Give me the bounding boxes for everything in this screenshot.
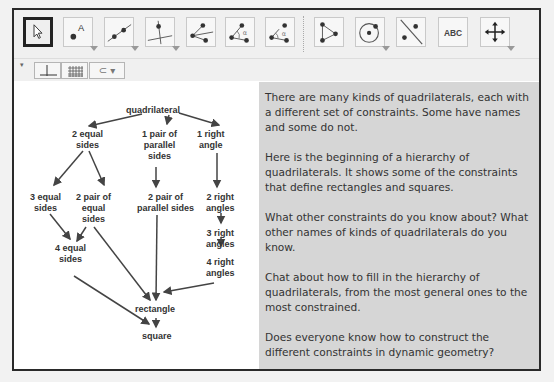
axes-icon [35,63,62,80]
point-tool-button[interactable]: A [63,17,93,47]
angle-given-size-icon: α [266,18,294,46]
reflect-about-line-icon [397,18,425,46]
perpendicular-tool-button[interactable] [145,17,175,47]
move-graphics-tool-button[interactable] [480,17,510,47]
menu-triangle-icon [507,46,515,51]
axes-toggle-button[interactable] [34,62,61,79]
menu-triangle-icon [172,46,180,51]
paragraph: Here is the beginning of a hierarchy of … [265,150,533,195]
cursor-arrow-icon [26,20,50,44]
node-two-pair-equal: 2 pair of equal sides [76,192,111,225]
line-tool-button[interactable] [104,17,134,47]
paragraph: Chat about how to fill in the hierarchy … [265,270,533,315]
toolbar-separator [303,16,305,52]
text-tool-button[interactable]: ABC [438,17,468,47]
menu-triangle-icon [90,46,98,51]
circle-tool-button[interactable] [355,17,385,47]
move-graphics-view-icon [481,18,509,46]
node-three-right-angles: 3 right angles [206,228,235,250]
node-one-right-angle: 1 right angle [197,129,225,151]
node-two-right-angles: 2 right angles [206,192,235,214]
quadrilateral-hierarchy-diagram: quadrilateral 2 equal sides 1 pair of pa… [14,81,256,371]
geogebra-window: A α α ABC [12,8,541,371]
paragraph: What other constraints do you know about… [265,210,533,255]
angle-tool-button[interactable]: α [225,17,255,47]
line-through-points-icon [105,18,133,46]
node-one-pair-parallel: 1 pair of parallel sides [142,129,177,162]
graphics-view[interactable]: quadrilateral 2 equal sides 1 pair of pa… [14,81,539,369]
svg-text:A: A [78,23,85,33]
rays-tool-button[interactable] [186,17,216,47]
paragraph: There are many kinds of quadrilaterals, … [265,90,533,135]
menu-triangle-icon [382,46,390,51]
svg-text:ABC: ABC [444,28,462,38]
node-two-equal-sides: 2 equal sides [72,129,103,151]
angle-icon: α [226,18,254,46]
polygon-icon [315,18,343,46]
reflect-tool-button[interactable] [396,17,426,47]
point-label-icon: A [64,18,92,46]
text-icon: ABC [439,18,467,46]
node-four-equal-sides: 4 equal sides [55,243,86,265]
angle-given-size-tool-button[interactable]: α [265,17,295,47]
polygon-tool-button[interactable] [314,17,344,47]
perpendicular-line-icon [146,18,174,46]
svg-text:α: α [282,30,286,38]
subset-menu-button[interactable]: ⊂ ▾ [89,62,125,79]
hierarchy-arrows [14,81,256,371]
menu-triangle-icon [131,46,139,51]
grid-icon [62,63,89,80]
circle-center-point-icon [356,18,384,46]
node-two-pair-parallel: 2 pair of parallel sides [137,192,194,214]
node-three-equal-sides: 3 equal sides [30,192,61,214]
toolbar: A α α ABC [14,10,539,58]
svg-text:α: α [243,29,247,37]
instructions-text-panel: There are many kinds of quadrilaterals, … [259,82,539,369]
grid-toggle-button[interactable] [61,62,88,79]
style-bar: ▾ ⊂ ▾ [14,58,539,82]
paragraph: Does everyone know how to construct the … [265,330,533,360]
rays-icon [187,18,215,46]
collapse-triangle-icon[interactable]: ▾ [20,61,24,69]
move-tool-button[interactable] [23,17,53,47]
node-quadrilateral: quadrilateral [126,105,180,116]
node-four-right-angles: 4 right angles [206,257,235,279]
node-square: square [142,331,172,342]
node-rectangle: rectangle [135,304,175,315]
